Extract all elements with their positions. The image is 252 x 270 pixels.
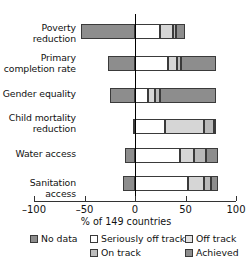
legend-item-off-track: Off track [185,233,236,244]
bar-segment-off-track [168,56,177,71]
legend-item-on-track: On track [90,247,141,258]
legend-item-seriously-off-track: Seriously off track [90,233,185,244]
bar-segment-achieved [160,88,216,103]
bar-segment-achieved [211,176,218,191]
bar-row [0,176,252,191]
zero-reference-line [135,14,136,201]
legend-item-no-data: No data [30,233,78,244]
legend-label-on-track: On track [101,247,141,258]
bar-segment-achieved [206,148,218,163]
legend-swatch-achieved [185,249,193,257]
x-tick-label: –50 [60,204,110,215]
bar-segment-no-data [108,56,135,71]
x-axis-title: % of 149 countries [0,216,252,227]
bar-segment-on-track [194,148,206,163]
bar-segment-off-track [160,24,173,39]
legend-swatch-seriously-off-track [90,235,98,243]
legend-item-achieved: Achieved [185,247,239,258]
bar-segment-no-data [125,148,135,163]
legend-swatch-on-track [90,249,98,257]
bar-segment-no-data [81,24,135,39]
x-tick [186,196,187,201]
legend-swatch-no-data [30,235,38,243]
bar-segment-off-track [165,119,203,134]
bar-row [0,148,252,163]
bar-segment-off-track [148,88,155,103]
x-tick [135,196,136,201]
bar-segment-seriously-off-track [135,24,160,39]
bar-segment-on-track [204,119,214,134]
bar-segment-off-track [180,148,193,163]
bar-row [0,88,252,103]
legend-label-achieved: Achieved [196,247,239,258]
bar-segment-achieved [181,56,215,71]
legend-swatch-off-track [185,235,193,243]
bar-segment-achieved [214,119,216,134]
bar-segment-seriously-off-track [135,56,168,71]
x-axis-line [34,201,236,202]
bar-segment-no-data [123,176,135,191]
bar-segment-no-data [110,88,135,103]
bar-row [0,24,252,39]
bar-segment-off-track [188,176,204,191]
legend-label-no-data: No data [41,233,78,244]
bar-segment-seriously-off-track [135,176,188,191]
bar-segment-seriously-off-track [135,119,165,134]
x-tick-label: –100 [9,204,59,215]
bar-row [0,56,252,71]
bar-row [0,119,252,134]
x-tick-label: 50 [161,204,211,215]
x-tick [34,196,35,201]
stacked-bar-chart: Poverty reduction Primary completion rat… [0,0,252,270]
x-tick [85,196,86,201]
bar-segment-achieved [176,24,185,39]
legend-label-off-track: Off track [196,233,236,244]
x-tick [236,196,237,201]
bar-segment-on-track [204,176,211,191]
x-tick-label: 0 [110,204,160,215]
x-tick-label: 100 [211,204,252,215]
bar-segment-seriously-off-track [135,88,148,103]
plot-area [0,0,252,270]
bar-segment-seriously-off-track [135,148,180,163]
legend-label-seriously-off-track: Seriously off track [101,233,185,244]
